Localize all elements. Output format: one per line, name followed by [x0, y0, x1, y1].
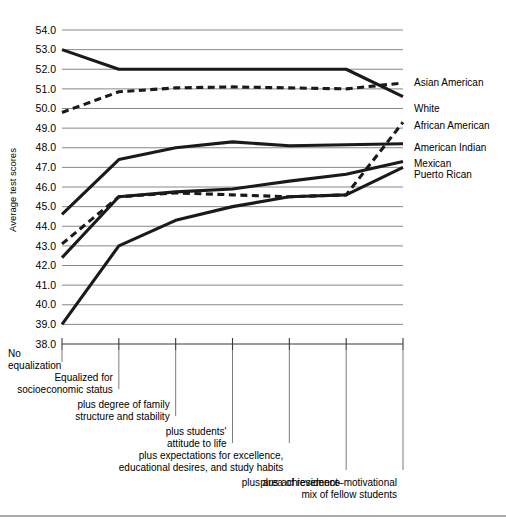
y-tick-label: 47.0 [36, 161, 57, 173]
category-label: structure and stability [75, 411, 170, 422]
legend-group: Asian AmericanWhiteAfrican AmericanAmeri… [414, 77, 490, 180]
y-tick-label: 49.0 [36, 122, 57, 134]
category-label: equalization [8, 360, 61, 371]
legend-label: American Indian [414, 142, 486, 153]
y-tick-label: 40.0 [36, 298, 57, 310]
y-tick-label: 39.0 [36, 318, 57, 330]
legend-label: African American [414, 120, 490, 131]
category-label: plus achievement–motivational [260, 477, 397, 488]
y-tick-label: 53.0 [36, 43, 57, 55]
series-line [62, 161, 403, 257]
category-label: attitude to life [167, 438, 227, 449]
chart-page: 54.053.052.051.050.049.048.047.046.045.0… [0, 0, 506, 530]
category-label: Equalized for [54, 372, 113, 383]
category-label: mix of fellow students [301, 489, 397, 500]
legend-label: Mexican [414, 158, 451, 169]
category-label: socioeconomic status [17, 384, 113, 395]
y-tick-labels-group: 54.053.052.051.050.049.048.047.046.045.0… [36, 24, 57, 350]
y-tick-label: 41.0 [36, 279, 57, 291]
y-tick-label: 46.0 [36, 181, 57, 193]
line-chart: 54.053.052.051.050.049.048.047.046.045.0… [0, 0, 506, 530]
category-label: plus degree of family [77, 399, 169, 410]
y-tick-label: 54.0 [36, 24, 57, 36]
y-tick-label: 45.0 [36, 200, 57, 212]
legend-label: Puerto Rican [414, 169, 472, 180]
y-tick-label: 44.0 [36, 220, 57, 232]
y-tick-label: 51.0 [36, 83, 57, 95]
y-tick-label: 43.0 [36, 240, 57, 252]
category-label: No [8, 348, 21, 359]
category-label: plus students' [166, 426, 227, 437]
y-axis-title: Average test scores [7, 148, 18, 232]
gridlines-group [62, 30, 403, 324]
y-tick-label: 38.0 [36, 338, 57, 350]
y-tick-label: 50.0 [36, 102, 57, 114]
category-label: plus expectations for excellence, [139, 450, 284, 461]
category-labels-group: NoequalizationEqualized forsocioeconomic… [8, 348, 397, 500]
y-tick-label: 48.0 [36, 141, 57, 153]
y-tick-label: 42.0 [36, 259, 57, 271]
legend-label: White [414, 103, 440, 114]
category-label: educational desires, and study habits [119, 462, 284, 473]
legend-label: Asian American [414, 77, 483, 88]
series-line [62, 83, 403, 112]
y-tick-label: 52.0 [36, 63, 57, 75]
